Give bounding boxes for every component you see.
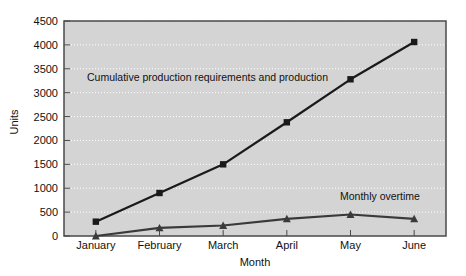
data-point-marker (220, 161, 226, 167)
data-point-marker (347, 76, 353, 82)
y-axis-tick-label: 0 (6, 230, 58, 242)
data-point-marker (411, 39, 417, 45)
y-axis-tick-label: 3500 (6, 63, 58, 75)
data-point-marker (156, 190, 162, 196)
y-axis-tick-labels: 050010001500200025003000350040004500 (0, 0, 58, 276)
y-axis-tick-label: 4000 (6, 39, 58, 51)
x-axis-tick-label: February (137, 239, 181, 251)
series-label-cumulative: Cumulative production requirements and p… (87, 71, 328, 83)
x-axis-tick-label: January (76, 239, 115, 251)
y-axis-tick-label: 2500 (6, 111, 58, 123)
y-axis-tick-label: 2000 (6, 134, 58, 146)
y-axis-tick-label: 1500 (6, 158, 58, 170)
series-label-overtime: Monthly overtime (340, 190, 420, 202)
x-axis-tick-label: April (276, 239, 298, 251)
y-axis-tick-label: 1000 (6, 182, 58, 194)
y-axis-tick-label: 3000 (6, 87, 58, 99)
data-point-marker (93, 218, 99, 224)
x-axis-tick-label: May (340, 239, 361, 251)
plot-background (64, 21, 446, 236)
data-point-marker (284, 119, 290, 125)
y-axis-tick-label: 500 (6, 206, 58, 218)
chart-container: Units Month 0500100015002000250030003500… (0, 0, 466, 276)
plot-area (0, 0, 466, 276)
x-axis-tick-label: June (402, 239, 426, 251)
x-axis-tick-label: March (208, 239, 239, 251)
y-axis-tick-label: 4500 (6, 15, 58, 27)
x-axis-title: Month (64, 256, 446, 268)
